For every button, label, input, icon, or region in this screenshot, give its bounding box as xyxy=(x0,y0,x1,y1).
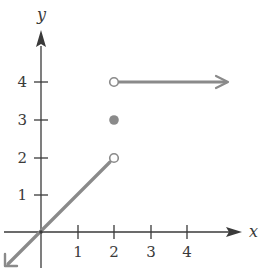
y-tick-label-3: 3 xyxy=(17,111,27,129)
x-tick-label-4: 4 xyxy=(182,243,192,261)
y-axis-arrow-icon xyxy=(36,30,46,47)
y-axis-label: y xyxy=(36,5,47,24)
x-axis-label: x xyxy=(249,222,258,241)
piecewise-function-graph: 1 2 3 4 1 2 3 4 x y xyxy=(0,0,263,268)
origin-point xyxy=(39,230,43,234)
open-circle-marker xyxy=(110,78,119,87)
filled-circle-marker xyxy=(109,115,119,125)
y-tick-label-2: 2 xyxy=(17,149,27,167)
x-tick-label-2: 2 xyxy=(109,243,119,261)
y-tick-label-4: 4 xyxy=(17,73,27,91)
x-tick-label-3: 3 xyxy=(146,243,156,261)
series-horizontal-segment xyxy=(110,76,228,88)
series-diagonal-segment xyxy=(5,154,118,266)
x-tick-label-1: 1 xyxy=(73,243,83,261)
open-circle-marker xyxy=(110,154,119,163)
y-tick-label-1: 1 xyxy=(17,186,27,204)
